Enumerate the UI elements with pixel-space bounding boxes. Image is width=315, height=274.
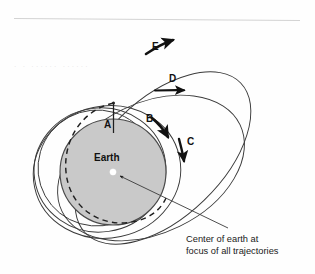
center-caption-line-2: focus of all trajectories [186, 246, 279, 257]
trajectory-label-D: D [169, 73, 176, 85]
arrow-E [146, 40, 173, 54]
earth-center-dot [110, 169, 116, 175]
launch-point [112, 102, 115, 105]
center-caption-line-1: Center of earth at [186, 234, 258, 245]
trajectory-label-B: B [146, 113, 153, 125]
trajectory-label-A: A [104, 119, 111, 131]
trajectory-label-C: C [187, 136, 194, 148]
print-bleed-artifact: · · ······ ······ [14, 63, 90, 70]
trajectory-label-E: E [152, 41, 159, 53]
earth-label: Earth [94, 152, 120, 164]
top-rule [14, 19, 300, 21]
